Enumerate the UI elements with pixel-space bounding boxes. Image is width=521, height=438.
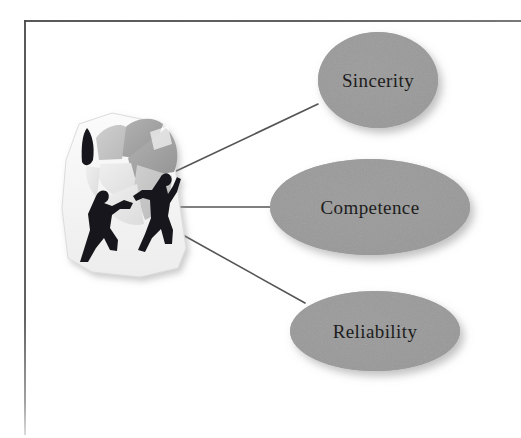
node-reliability[interactable]: Reliability: [290, 291, 460, 371]
figure-root: Sincerity Competence Reliability: [0, 0, 521, 438]
node-competence[interactable]: Competence: [270, 159, 470, 255]
sincerity-label: Sincerity: [342, 70, 414, 91]
edge-to-sincerity: [172, 104, 318, 173]
teamwork-clipart[interactable]: [62, 113, 186, 277]
competence-label: Competence: [321, 197, 420, 218]
concept-diagram: Sincerity Competence Reliability: [0, 0, 521, 438]
reliability-label: Reliability: [333, 321, 418, 342]
node-sincerity[interactable]: Sincerity: [318, 32, 438, 128]
edge-to-reliability: [183, 235, 305, 303]
